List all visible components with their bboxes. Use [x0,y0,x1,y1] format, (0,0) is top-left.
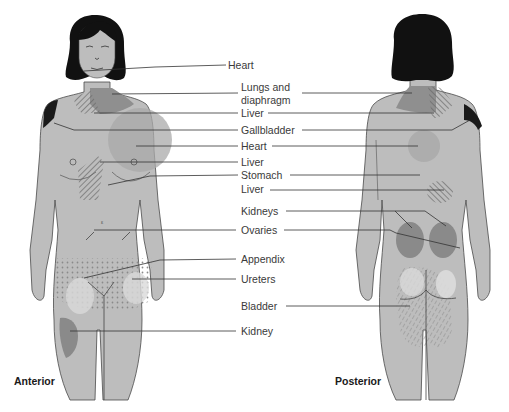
anterior-ureter-right [123,272,149,304]
posterior-ureter-left [400,268,424,296]
label-gallbladder: Gallbladder [241,124,295,136]
label-liver-2: Liver [241,156,264,168]
label-appendix: Appendix [241,253,285,265]
label-liver-1: Liver [241,107,264,119]
posterior-figure [356,14,490,400]
posterior-kidney-left [396,222,424,258]
label-kidneys: Kidneys [241,205,278,217]
label-stomach: Stomach [241,169,282,181]
view-label-anterior: Anterior [14,375,55,387]
label-kidney: Kidney [241,325,273,337]
view-label-posterior: Posterior [335,375,381,387]
label-liver-3: Liver [241,183,264,195]
label-bladder: Bladder [241,300,277,312]
anterior-figure: ε [30,15,172,400]
label-heart-anterior: Heart [228,59,254,71]
label-heart-2: Heart [241,140,267,152]
label-ovaries: Ovaries [241,224,277,236]
label-lungs-and: Lungs and [241,81,290,93]
posterior-ureter-right [436,270,456,298]
label-diaphragm: diaphragm [241,94,291,106]
label-ureters: Ureters [241,273,275,285]
posterior-liver-hatch-lower [427,181,453,203]
posterior-kidney-right [429,222,457,258]
posterior-hair [391,14,453,81]
